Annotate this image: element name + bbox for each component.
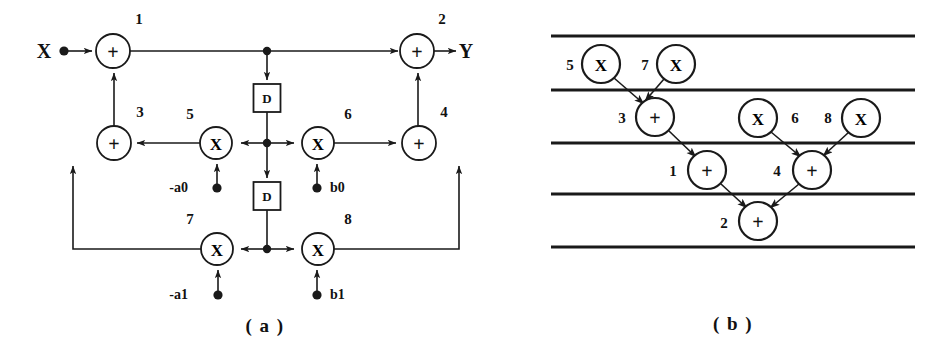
panel-a-caption: ( a ) [245, 315, 284, 337]
adder-4-label: 4 [440, 104, 448, 120]
multiplier-6: X 6 [302, 106, 352, 159]
coef-dot-b1 [312, 290, 321, 299]
sched-node-1-label: 1 [669, 163, 677, 179]
output-signal-label: Y [459, 40, 474, 62]
multiplier-6-glyph: X [312, 135, 325, 154]
panel-a-diagram: D D + 1 + 2 + 3 [37, 11, 474, 337]
multiplier-6-label: 6 [344, 106, 352, 122]
sched-node-3-label: 3 [618, 110, 626, 126]
coef-dot--a1 [213, 290, 222, 299]
figure-canvas: D D + 1 + 2 + 3 [0, 0, 946, 358]
multiplier-5-glyph: X [210, 135, 223, 154]
sched-node-8-glyph: X [855, 110, 868, 129]
sched-node-2: + 2 [720, 202, 777, 240]
delay-block-lower-label: D [262, 189, 271, 204]
sched-node-4-glyph: + [806, 160, 817, 182]
sched-node-1-glyph: + [701, 160, 712, 182]
multiplier-7: X 7 [186, 211, 233, 265]
delay-block-lower: D [254, 182, 281, 210]
wire-mult7-to-adder3 [73, 166, 201, 249]
wire-mult8-to-adder4 [334, 166, 459, 249]
sched-node-7-glyph: X [670, 56, 683, 75]
sched-node-4: + 4 [773, 151, 831, 189]
sched-node-8-label: 8 [824, 110, 832, 126]
sched-node-2-glyph: + [752, 211, 763, 233]
sched-node-5-glyph: X [595, 56, 608, 75]
coef-dot-b0 [312, 183, 321, 192]
multiplier-8: X 8 [302, 211, 352, 265]
sched-node-6: X 6 [739, 99, 799, 137]
junction-middle-tap [263, 139, 271, 147]
multiplier-5-label: 5 [186, 106, 194, 122]
junction-top-tap [263, 47, 271, 55]
adder-2-glyph: + [411, 41, 422, 63]
adder-1-glyph: + [107, 41, 118, 63]
multiplier-8-label: 8 [344, 211, 352, 227]
input-dot [59, 46, 68, 55]
adder-3-label: 3 [136, 104, 144, 120]
coefficient-label-b1: b1 [330, 287, 345, 302]
delay-block-upper: D [254, 84, 281, 112]
edge-1-to-2 [721, 184, 747, 208]
panel-b-caption: ( b ) [713, 313, 753, 335]
adder-4: + 4 [402, 104, 448, 160]
coefficient-label-b0: b0 [330, 180, 345, 195]
sched-node-1: + 1 [669, 151, 726, 189]
adder-3: + 3 [97, 104, 144, 160]
junction-bottom-tap [263, 245, 271, 253]
sched-node-3: + 3 [618, 98, 674, 136]
adder-4-glyph: + [413, 133, 424, 155]
sched-node-7-label: 7 [641, 57, 649, 73]
adder-3-glyph: + [108, 133, 119, 155]
adder-2-label: 2 [438, 11, 446, 27]
sched-node-8: X 8 [824, 99, 880, 137]
delay-block-upper-label: D [262, 91, 271, 106]
multiplier-8-glyph: X [312, 241, 325, 260]
sched-node-2-label: 2 [720, 215, 728, 231]
input-signal-label: X [37, 40, 52, 62]
figure-root: D D + 1 + 2 + 3 [0, 0, 946, 358]
edge-4-to-2 [770, 184, 799, 208]
adder-1: + 1 [96, 11, 143, 68]
sched-node-7: X 7 [641, 45, 695, 83]
sched-node-6-label: 6 [791, 110, 799, 126]
sched-node-5: X 5 [566, 45, 620, 83]
panel-b-diagram: X 5 X 7 + 3 X 6 X 8 [551, 36, 915, 335]
coef-dot--a0 [212, 183, 221, 192]
multiplier-7-glyph: X [211, 241, 224, 260]
adder-1-label: 1 [135, 11, 143, 27]
coefficient-label--a0: -a0 [169, 180, 188, 195]
coefficient-label--a1: -a1 [169, 287, 188, 302]
adder-2: + 2 [400, 11, 446, 68]
sched-node-3-glyph: + [649, 107, 660, 129]
multiplier-5: X 5 [186, 106, 232, 159]
sched-node-6-glyph: X [752, 110, 765, 129]
sched-node-4-label: 4 [773, 163, 781, 179]
sched-node-5-label: 5 [566, 57, 574, 73]
multiplier-7-label: 7 [186, 211, 194, 227]
